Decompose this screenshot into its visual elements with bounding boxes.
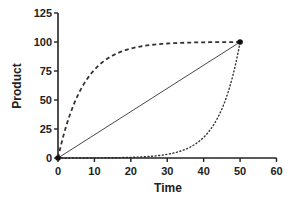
- y-tick-label: 100: [34, 36, 52, 48]
- x-tick-label: 40: [198, 165, 210, 177]
- axes: 02550751001250102030405060: [34, 7, 283, 177]
- y-tick-label: 0: [46, 152, 52, 164]
- x-tick-label: 30: [161, 165, 173, 177]
- plot-lines: [58, 42, 240, 158]
- x-tick-label: 10: [88, 165, 100, 177]
- data-point-marker: [55, 155, 61, 161]
- y-tick-label: 75: [40, 65, 52, 77]
- chart: 02550751001250102030405060 Time Product: [0, 0, 294, 210]
- x-axis-title: Time: [154, 181, 182, 195]
- x-tick-label: 60: [270, 165, 282, 177]
- x-tick-label: 20: [125, 165, 137, 177]
- data-point-marker: [237, 39, 243, 45]
- x-tick-label: 50: [234, 165, 246, 177]
- series-line-solid: [58, 42, 240, 158]
- y-tick-label: 125: [34, 7, 52, 19]
- y-tick-label: 50: [40, 94, 52, 106]
- x-tick-label: 0: [55, 165, 61, 177]
- y-tick-label: 25: [40, 123, 52, 135]
- y-axis-title: Product: [10, 63, 24, 108]
